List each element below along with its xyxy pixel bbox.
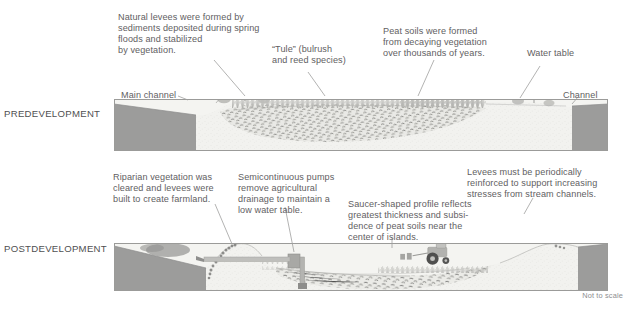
section-label-postdevelopment: POSTDEVELOPMENT: [4, 243, 107, 255]
right-channel-water: [572, 104, 608, 151]
callout-tule: “Tule” (bulrush and reed species): [272, 44, 382, 66]
section-label-predevelopment: PREDEVELOPMENT: [4, 108, 100, 120]
callout-semicontinuous-pumps: Semicontinuous pumps remove agricultural…: [238, 172, 353, 216]
drainage-pipe-down: [300, 257, 305, 285]
leader-riparian: [215, 204, 232, 244]
levee-vegetation-left: [216, 64, 270, 104]
drainage-pipe-left: [204, 257, 290, 262]
leader-water-table: [520, 66, 540, 98]
postdevelopment-panel-art: [114, 242, 608, 291]
drain-outlet: [298, 283, 307, 289]
figure-stage: PREDEVELOPMENT POSTDEVELOPMENT Natural l…: [0, 0, 625, 314]
callout-channel: Channel: [563, 90, 623, 101]
leader-peat: [418, 60, 434, 96]
callout-saucer-profile: Saucer-shaped profile reflects greatest …: [348, 199, 488, 243]
leader-levee-reinforce: [524, 198, 533, 214]
callout-peat-soils: Peat soils were formed from decaying veg…: [383, 26, 523, 59]
delta-cross-section-figure: PREDEVELOPMENT POSTDEVELOPMENT Natural l…: [0, 0, 625, 314]
post-right-channel-water: [578, 244, 608, 291]
footnote-not-to-scale: Not to scale: [553, 291, 623, 300]
predevelopment-panel-art: [114, 64, 608, 151]
callout-levee-reinforcement: Levees must be periodically reinforced t…: [467, 167, 617, 200]
callout-riparian-vegetation: Riparian vegetation was cleared and leve…: [113, 172, 243, 205]
callout-main-channel: Main channel: [121, 90, 211, 101]
post-field-vegetation: [378, 264, 488, 273]
callout-water-table: Water table: [527, 48, 617, 59]
leader-natural-levees: [214, 60, 245, 96]
leader-tule: [308, 72, 325, 96]
callout-natural-levees: Natural levees were formed by sediments …: [118, 12, 298, 56]
